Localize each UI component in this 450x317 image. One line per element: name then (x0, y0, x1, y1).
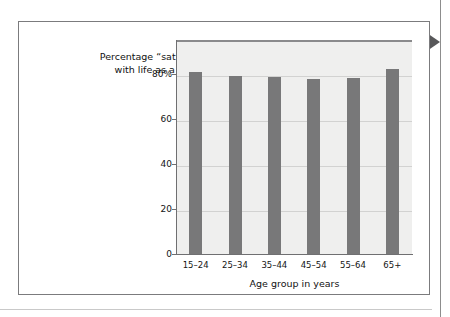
x-axis-tick-label: 55–64 (333, 260, 373, 270)
page-bottom-rule (0, 309, 432, 310)
x-axis-title: Age group in years (176, 278, 413, 289)
y-axis-tick-mark (172, 254, 176, 255)
y-axis-tick-mark (172, 209, 176, 210)
y-axis-line (176, 40, 177, 255)
y-axis-tick-mark (172, 164, 176, 165)
gridline (176, 76, 412, 77)
page-right-rule (440, 0, 441, 317)
y-axis-tick-label: 0 (132, 249, 172, 259)
y-axis-tick-labels: 020406080% (127, 22, 172, 317)
x-axis-tick-label: 25–34 (215, 260, 255, 270)
bar (268, 77, 281, 254)
bar (307, 79, 320, 254)
y-axis-tick-label: 60 (132, 114, 172, 124)
plot-area (176, 40, 412, 255)
page-canvas: Percentage “satisfied” with life as a wh… (0, 0, 450, 317)
x-axis-tick-label: 15–24 (176, 260, 216, 270)
x-axis-tick-label: 65+ (372, 260, 412, 270)
gridline (176, 121, 412, 122)
y-axis-tick-label: 20 (132, 204, 172, 214)
y-axis-tick-mark (172, 119, 176, 120)
bar (229, 76, 242, 254)
gridline (176, 211, 412, 212)
x-axis-tick-label: 45–54 (294, 260, 334, 270)
y-axis-tick-label: 40 (132, 159, 172, 169)
bar (386, 69, 399, 254)
y-axis-tick-mark (172, 74, 176, 75)
y-axis-tick-label: 80% (132, 69, 172, 79)
bar (189, 72, 202, 254)
x-axis-tick-label: 35–44 (254, 260, 294, 270)
bar (347, 78, 360, 254)
x-axis-line (176, 254, 413, 255)
figure-card: Percentage “satisfied” with life as a wh… (18, 21, 430, 295)
gridline (176, 166, 412, 167)
